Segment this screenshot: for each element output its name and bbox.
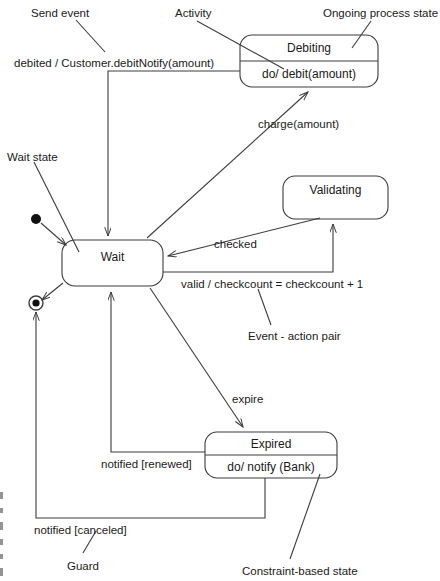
transition-label-valid: valid / checkcount = checkcount + 1 [181, 279, 363, 291]
state-activity-debiting: do/ debit(amount) [240, 68, 378, 80]
annotation-constraint-based-state: Constraint-based state [242, 566, 358, 578]
transition-label-debited: debited / Customer.debitNotify(amount) [14, 58, 214, 70]
transition-wait-to-expired [150, 288, 243, 427]
state-activity-expired: do/ notify (Bank) [205, 461, 337, 473]
page-edge-artifact [0, 508, 3, 513]
page-edge-artifact [0, 492, 3, 499]
leader-send-event [76, 20, 105, 52]
transition-label-charge: charge(amount) [258, 119, 339, 131]
state-label-wait: Wait [62, 251, 163, 263]
page-edge-artifact [0, 522, 3, 530]
state-label-validating: Validating [283, 184, 388, 196]
page-edge-artifact [0, 539, 3, 545]
transition-label-notified-canceled: notified [canceled] [34, 525, 127, 537]
annotation-ongoing-process-state: Ongoing process state [323, 8, 438, 20]
transition-label-notified-renewed: notified [renewed] [101, 459, 192, 471]
transition-label-expire: expire [232, 394, 263, 406]
annotation-activity: Activity [175, 8, 211, 20]
leader-event-action-pair [258, 289, 271, 325]
transition-wait-to-debiting [147, 92, 308, 238]
transition-initial-to-wait [41, 223, 66, 245]
transition-wait-to-final [42, 283, 63, 300]
transition-debiting-to-wait [108, 71, 240, 236]
transition-label-checked: checked [214, 239, 257, 251]
annotation-send-event: Send event [31, 8, 89, 20]
state-label-expired: Expired [205, 438, 337, 450]
transition-expired-to-wait [111, 292, 205, 452]
leader-wait-state [34, 162, 79, 252]
initial-state-marker [31, 214, 41, 224]
diagram-connectors [0, 0, 440, 581]
final-state-marker [29, 296, 43, 310]
annotation-event-action-pair: Event - action pair [248, 331, 341, 343]
leader-constraint-based-state [290, 474, 320, 559]
page-edge-artifact [0, 568, 3, 576]
annotation-guard: Guard [67, 561, 99, 573]
transition-expired-to-final [36, 312, 265, 518]
page-edge-artifact [0, 554, 3, 559]
annotation-wait-state: Wait state [7, 152, 58, 164]
state-diagram-canvas: Debiting do/ debit(amount) Validating Wa… [0, 0, 440, 581]
state-label-debiting: Debiting [240, 42, 378, 54]
